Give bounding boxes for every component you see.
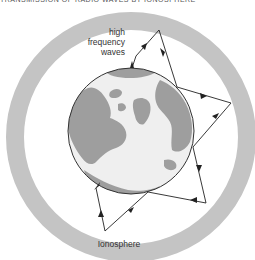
arrow-icon xyxy=(200,93,207,99)
label-frequency: frequency xyxy=(88,37,126,47)
label-high: high xyxy=(109,27,125,37)
label-waves: waves xyxy=(100,47,125,57)
arrow-icon xyxy=(98,210,104,217)
arrow-icon xyxy=(190,197,197,203)
radio-wave-diagram: high frequency waves Ionosphere xyxy=(0,0,255,260)
label-ionosphere: Ionosphere xyxy=(98,239,141,249)
arrow-icon xyxy=(196,165,202,172)
arrow-icon xyxy=(160,48,165,57)
earth-globe xyxy=(68,67,194,195)
